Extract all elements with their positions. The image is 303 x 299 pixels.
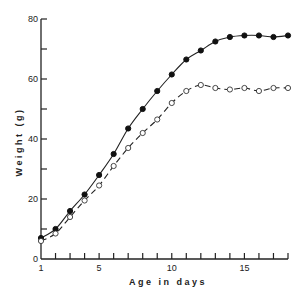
series-filled (38, 33, 290, 241)
open-circle-marker (256, 88, 261, 93)
filled-circle-marker (242, 33, 247, 38)
open-circle-marker (169, 100, 174, 105)
open-circle-marker (213, 85, 218, 90)
open-circle-marker (184, 88, 189, 93)
growth-chart: 020406080151015 Weight (g) Age in days (0, 0, 303, 299)
data-series (38, 33, 290, 244)
x-tick-label: 10 (167, 263, 177, 273)
y-tick-label: 20 (28, 194, 38, 204)
open-circle-marker (285, 85, 290, 90)
x-tick-label: 15 (239, 263, 249, 273)
filled-circle-marker (256, 33, 261, 38)
open-circle-marker (126, 145, 131, 150)
open-circle-marker (271, 85, 276, 90)
open-circle-marker (111, 163, 116, 168)
open-circle-marker (67, 214, 72, 219)
dashed-curve (41, 85, 288, 241)
open-circle-marker (82, 198, 87, 203)
filled-circle-marker (271, 34, 276, 39)
filled-circle-marker (97, 172, 102, 177)
x-tick-label: 1 (38, 263, 43, 273)
filled-circle-marker (285, 33, 290, 38)
y-tick-label: 80 (28, 14, 38, 24)
filled-circle-marker (155, 88, 160, 93)
filled-circle-marker (126, 126, 131, 131)
x-axis-title: Age in days (129, 277, 207, 287)
open-circle-marker (227, 87, 232, 92)
open-circle-marker (38, 238, 43, 243)
open-circle-marker (97, 183, 102, 188)
y-axis-title: Weight (g) (14, 108, 24, 177)
filled-circle-marker (67, 208, 72, 213)
open-circle-marker (198, 82, 203, 87)
open-circle-marker (140, 130, 145, 135)
filled-circle-marker (111, 151, 116, 156)
filled-circle-marker (213, 39, 218, 44)
y-tick-label: 40 (28, 134, 38, 144)
open-circle-marker (155, 117, 160, 122)
filled-circle-marker (82, 192, 87, 197)
x-tick-label: 5 (97, 263, 102, 273)
filled-circle-marker (198, 48, 203, 53)
series-open (38, 82, 290, 243)
filled-circle-marker (227, 34, 232, 39)
y-tick-label: 60 (28, 74, 38, 84)
open-circle-marker (53, 231, 58, 236)
axes: 020406080151015 (28, 14, 288, 273)
filled-circle-marker (169, 72, 174, 77)
filled-circle-marker (140, 106, 145, 111)
filled-circle-marker (184, 57, 189, 62)
open-circle-marker (242, 85, 247, 90)
y-tick-label: 0 (33, 254, 38, 264)
